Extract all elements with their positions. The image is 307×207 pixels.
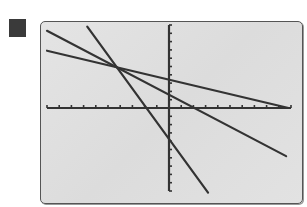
graph-plot <box>0 0 307 207</box>
graph-line-1 <box>87 27 208 193</box>
plotted-lines <box>47 27 289 193</box>
graph-line-3 <box>47 51 289 108</box>
